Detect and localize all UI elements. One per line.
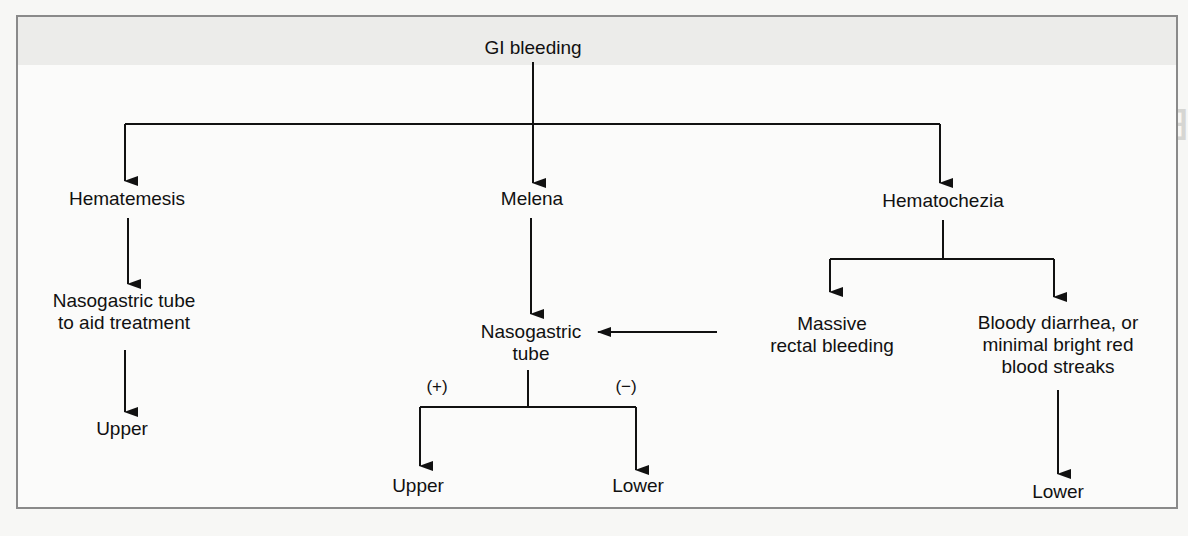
node-lower-right: Lower xyxy=(1032,481,1084,503)
massive-line1: Massive xyxy=(770,313,894,335)
node-bloody-diarrhea: Bloody diarrhea, or minimal bright red b… xyxy=(978,312,1139,378)
node-hematemesis: Hematemesis xyxy=(69,188,185,210)
ng-tube-treatment-line1: Nasogastric tube xyxy=(53,290,196,312)
node-massive-rectal-bleeding: Massive rectal bleeding xyxy=(770,313,894,357)
node-hematochezia: Hematochezia xyxy=(882,190,1003,212)
ng-tube-treatment-line2: to aid treatment xyxy=(53,312,196,334)
ng-tube-line1: Nasogastric xyxy=(481,321,581,343)
edge-label-positive: (+) xyxy=(426,377,447,397)
node-gi-bleeding: GI bleeding xyxy=(484,37,581,59)
bloody-line3: blood streaks xyxy=(978,356,1139,378)
node-upper-mid: Upper xyxy=(392,475,444,497)
bloody-line2: minimal bright red xyxy=(978,334,1139,356)
ng-tube-line2: tube xyxy=(481,343,581,365)
bloody-line1: Bloody diarrhea, or xyxy=(978,312,1139,334)
node-melena: Melena xyxy=(501,188,563,210)
edge-label-negative: (−) xyxy=(615,377,636,397)
node-ng-tube: Nasogastric tube xyxy=(481,321,581,365)
node-upper-left: Upper xyxy=(96,418,148,440)
node-ng-tube-treatment: Nasogastric tube to aid treatment xyxy=(53,290,196,334)
flowchart-connectors xyxy=(0,0,1188,536)
massive-line2: rectal bleeding xyxy=(770,335,894,357)
node-lower-mid: Lower xyxy=(612,475,664,497)
